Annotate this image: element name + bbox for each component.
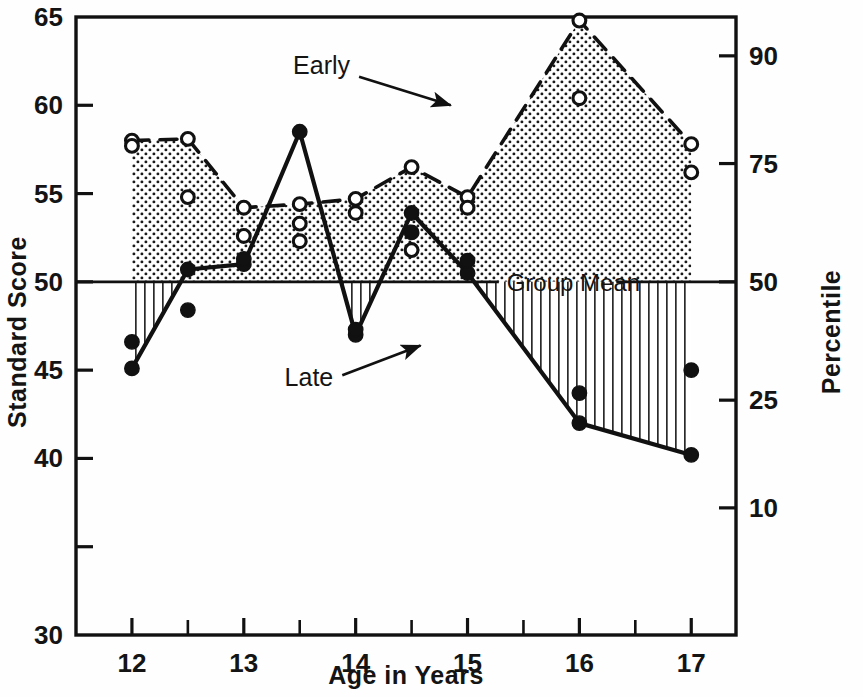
late-annotation-arrow bbox=[342, 345, 420, 375]
early-scatter-point bbox=[293, 235, 306, 248]
early-scatter-point bbox=[573, 92, 586, 105]
group-mean-annotation-label: Group Mean bbox=[507, 269, 640, 296]
late-scatter-point bbox=[684, 363, 698, 377]
late-data-point bbox=[684, 448, 698, 462]
early-scatter-point bbox=[461, 201, 474, 214]
early-data-point bbox=[405, 161, 418, 174]
y-tick-label: 55 bbox=[34, 179, 63, 209]
early-data-point bbox=[181, 132, 194, 145]
late-data-point bbox=[293, 125, 307, 139]
y2-axis-title-text: Percentile bbox=[817, 270, 845, 395]
chart-figure: EarlyLateGroup Mean 65605550454030907550… bbox=[0, 0, 863, 697]
late-scatter-point bbox=[237, 252, 251, 266]
late-scatter-point bbox=[181, 303, 195, 317]
early-scatter-point bbox=[349, 207, 362, 220]
x-axis-title-text: Age in Years bbox=[328, 661, 484, 689]
x-tick-label: 12 bbox=[117, 648, 146, 678]
early-data-point bbox=[685, 138, 698, 151]
y-tick-label: 60 bbox=[34, 90, 63, 120]
late-scatter-point bbox=[460, 253, 474, 267]
y-tick-label: 40 bbox=[34, 443, 63, 473]
late-scatter-point bbox=[125, 335, 139, 349]
late-data-point bbox=[404, 206, 418, 220]
x-tick-label: 13 bbox=[229, 648, 258, 678]
early-data-point bbox=[349, 192, 362, 205]
y2-tick-label: 25 bbox=[749, 385, 778, 415]
x-tick-label: 16 bbox=[565, 648, 594, 678]
early-annotation-arrow bbox=[359, 77, 451, 106]
early-scatter-point bbox=[405, 244, 418, 257]
y-tick-label: 50 bbox=[34, 267, 63, 297]
early-data-point bbox=[573, 14, 586, 27]
late-data-point bbox=[181, 262, 195, 276]
late-scatter-point bbox=[572, 386, 586, 400]
late-data-point bbox=[125, 361, 139, 375]
late-annotation-label: Late bbox=[285, 363, 334, 391]
early-scatter-point bbox=[237, 230, 250, 243]
x-tick-label: 17 bbox=[677, 648, 706, 678]
y2-tick-label: 50 bbox=[749, 267, 778, 297]
y2-tick-label: 75 bbox=[749, 149, 778, 179]
early-scatter-point bbox=[293, 217, 306, 230]
early-annotation-label: Early bbox=[293, 51, 350, 79]
y-tick-label: 30 bbox=[34, 620, 63, 650]
late-scatter-point bbox=[348, 322, 362, 336]
y-tick-label: 65 bbox=[34, 2, 63, 32]
early-scatter-point bbox=[126, 139, 139, 152]
y2-tick-label: 90 bbox=[749, 41, 778, 71]
chart-canvas: EarlyLateGroup Mean 65605550454030907550… bbox=[0, 0, 863, 697]
early-scatter-point bbox=[181, 191, 194, 204]
early-data-point bbox=[293, 198, 306, 211]
y2-tick-label: 10 bbox=[749, 493, 778, 523]
y-axis-title-text: Standard Score bbox=[3, 236, 31, 428]
early-data-point bbox=[237, 201, 250, 214]
late-scatter-point bbox=[404, 225, 418, 239]
late-data-point bbox=[572, 416, 586, 430]
early-scatter-point bbox=[685, 166, 698, 179]
y-tick-label: 45 bbox=[34, 355, 63, 385]
